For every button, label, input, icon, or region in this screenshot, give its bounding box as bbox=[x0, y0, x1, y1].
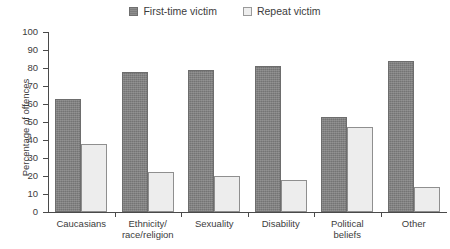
y-axis-tick-label: 60 bbox=[12, 99, 38, 109]
x-axis-separator-tick bbox=[381, 212, 382, 217]
x-axis-category-label: Caucasians bbox=[48, 218, 115, 229]
bar bbox=[214, 176, 240, 212]
x-axis-separator-tick bbox=[314, 212, 315, 217]
x-axis-category-label-line: Sexuality bbox=[181, 218, 248, 229]
bar-chart: Percentage of offences 10090807060504030… bbox=[0, 0, 450, 249]
bar bbox=[321, 117, 347, 212]
x-axis-category-label-line: Other bbox=[381, 218, 448, 229]
x-axis-category-label-line: beliefs bbox=[314, 229, 381, 240]
x-axis-separator-tick bbox=[181, 212, 182, 217]
x-axis-category-label-line: Ethnicity/ bbox=[115, 218, 182, 229]
y-axis-tick-label: 80 bbox=[12, 63, 38, 73]
y-axis-tick-label: 20 bbox=[12, 171, 38, 181]
x-axis-category-label-line: Disability bbox=[248, 218, 315, 229]
bar bbox=[281, 180, 307, 212]
bar bbox=[81, 144, 107, 212]
y-axis-tick-label: 0 bbox=[12, 207, 38, 217]
bar bbox=[148, 172, 174, 212]
y-axis-tick-label: 70 bbox=[12, 81, 38, 91]
bar bbox=[55, 99, 81, 212]
x-axis-category-label: Other bbox=[381, 218, 448, 229]
y-axis-tick-label: 10 bbox=[12, 189, 38, 199]
x-axis-category-label-line: Political bbox=[314, 218, 381, 229]
x-axis-separator-tick bbox=[248, 212, 249, 217]
y-axis-tick-label: 40 bbox=[12, 135, 38, 145]
y-axis-tick-label: 100 bbox=[12, 27, 38, 37]
y-axis-tick-label: 50 bbox=[12, 117, 38, 127]
bar bbox=[122, 72, 148, 212]
x-axis-category-label: Ethnicity/race/religion bbox=[115, 218, 182, 240]
bar bbox=[347, 127, 373, 212]
y-axis-tick-label: 30 bbox=[12, 153, 38, 163]
x-axis-category-label-line: Caucasians bbox=[48, 218, 115, 229]
x-axis-category-label: Sexuality bbox=[181, 218, 248, 229]
x-axis-category-label: Politicalbeliefs bbox=[314, 218, 381, 240]
bar bbox=[388, 61, 414, 212]
x-axis-category-label: Disability bbox=[248, 218, 315, 229]
bar bbox=[188, 70, 214, 212]
bar bbox=[255, 66, 281, 212]
y-axis-tick-label: 90 bbox=[12, 45, 38, 55]
y-axis-tick bbox=[43, 212, 48, 213]
plot-area bbox=[48, 32, 447, 212]
x-axis-category-label-line: race/religion bbox=[115, 229, 182, 240]
x-axis-separator-tick bbox=[115, 212, 116, 217]
bar bbox=[414, 187, 440, 212]
